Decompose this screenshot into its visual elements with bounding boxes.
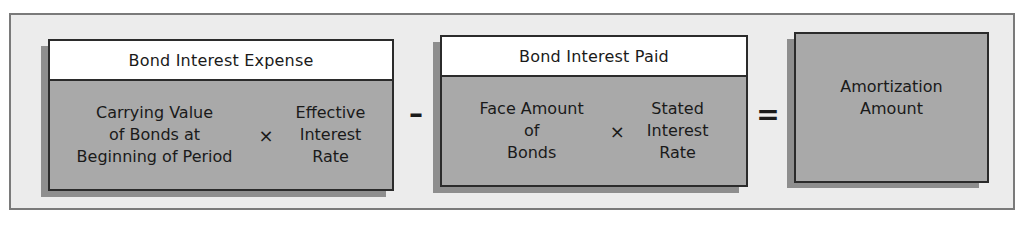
carrying-value-term: Carrying Value of Bonds at Beginning of … — [77, 102, 233, 168]
bond-interest-expense-box: Bond Interest Expense Carrying Value of … — [48, 39, 394, 191]
bond-interest-paid-header: Bond Interest Paid — [442, 37, 746, 77]
effective-rate-term: Effective Interest Rate — [296, 102, 366, 168]
bond-interest-expense-formula: Carrying Value of Bonds at Beginning of … — [50, 81, 392, 189]
bond-interest-paid-formula: Face Amount of Bonds × Stated Interest R… — [442, 77, 746, 185]
bond-interest-expense-header: Bond Interest Expense — [50, 41, 392, 81]
multiply-icon: × — [610, 121, 625, 142]
bond-interest-paid-box: Bond Interest Paid Face Amount of Bonds … — [440, 35, 748, 187]
multiply-icon: × — [259, 125, 274, 146]
minus-operator: – — [404, 100, 428, 128]
amortization-amount-box: Amortization Amount — [794, 32, 989, 183]
stated-rate-term: Stated Interest Rate — [647, 98, 709, 164]
face-amount-term: Face Amount of Bonds — [480, 98, 584, 164]
equals-operator: = — [756, 101, 780, 129]
amortization-amount-label: Amortization Amount — [796, 34, 987, 181]
